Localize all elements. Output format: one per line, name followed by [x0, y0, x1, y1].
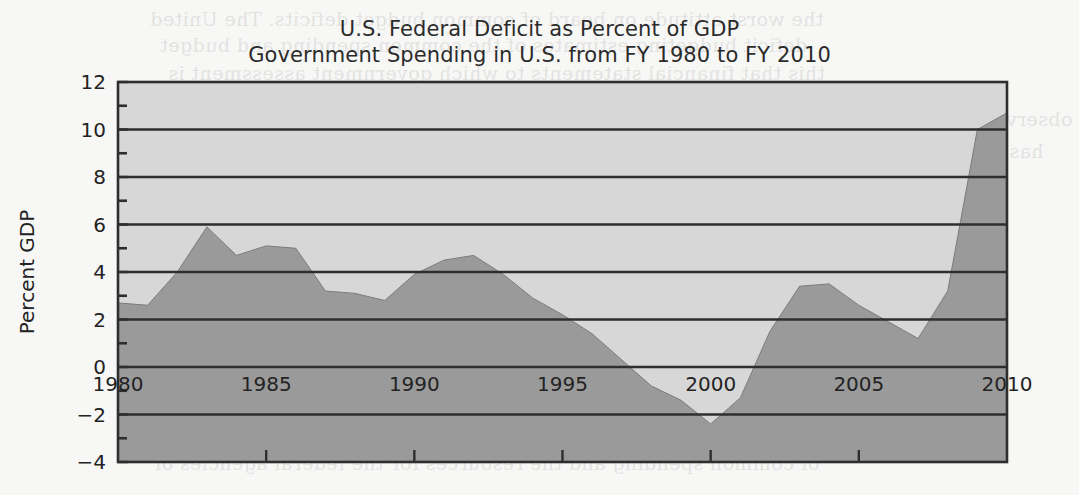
x-tick-label: 1995: [537, 372, 588, 396]
chart-plot-area: −4−2024681012 19801985199019952000200520…: [0, 0, 1079, 495]
y-axis-tick-labels: −4−2024681012: [77, 70, 106, 474]
y-tick-label: 2: [93, 308, 106, 332]
y-tick-label: 6: [93, 213, 106, 237]
y-axis-title: Percent GDP: [15, 210, 39, 335]
y-tick-label: 10: [81, 118, 106, 142]
y-tick-label: −2: [77, 403, 106, 427]
x-tick-label: 1980: [93, 372, 144, 396]
x-tick-label: 2005: [833, 372, 884, 396]
y-axis-title-text: Percent GDP: [15, 210, 39, 335]
y-tick-label: −4: [77, 450, 106, 474]
x-tick-label: 2000: [685, 372, 736, 396]
x-tick-label: 1985: [241, 372, 292, 396]
chart-figure: U.S. Federal Deficit as Percent of GDP G…: [0, 0, 1079, 495]
y-tick-label: 4: [93, 260, 106, 284]
x-tick-label: 2010: [982, 372, 1033, 396]
x-tick-label: 1990: [389, 372, 440, 396]
y-tick-label: 8: [93, 165, 106, 189]
y-tick-label: 12: [81, 70, 106, 94]
